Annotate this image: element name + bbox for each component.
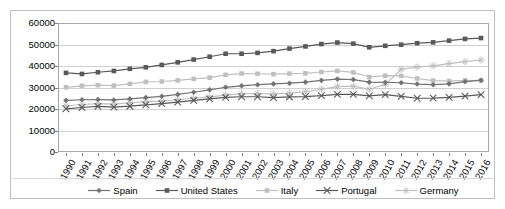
- series-spain: [63, 76, 484, 103]
- x-axis-tick-mark: [433, 153, 434, 156]
- x-axis-tick-mark: [130, 153, 131, 156]
- legend-marker-asterisk-icon: [395, 186, 417, 195]
- x-axis-tick-mark: [162, 153, 163, 156]
- legend-marker-diamond-icon: [88, 186, 110, 195]
- legend-marker-square-icon: [256, 186, 278, 195]
- legend-item-spain[interactable]: Spain: [88, 186, 137, 196]
- x-axis-tick-mark: [305, 153, 306, 156]
- y-axis-tick-label: 30000: [11, 83, 55, 93]
- x-axis: 1990199119921993199419951996199719981999…: [58, 153, 489, 185]
- x-axis-tick-mark: [401, 153, 402, 156]
- y-axis-tick-label: 20000: [11, 104, 55, 114]
- legend-item-italy[interactable]: Italy: [256, 186, 298, 196]
- x-axis-tick-mark: [417, 153, 418, 156]
- x-axis-tick-mark: [449, 153, 450, 156]
- legend-label: United States: [181, 186, 238, 196]
- y-axis-tick-label: 0: [11, 147, 55, 157]
- y-axis: 0100002000030000400005000060000: [11, 23, 55, 152]
- legend-divider: [12, 178, 495, 179]
- legend-item-germany[interactable]: Germany: [395, 186, 459, 196]
- legend-label: Germany: [420, 186, 459, 196]
- y-axis-tick-label: 40000: [11, 61, 55, 71]
- legend-item-united-states[interactable]: United States: [156, 186, 238, 196]
- x-axis-tick-mark: [337, 153, 338, 156]
- x-axis-tick-mark: [114, 153, 115, 156]
- x-axis-tick-mark: [226, 153, 227, 156]
- legend-label: Portugal: [341, 186, 376, 196]
- x-axis-tick-mark: [194, 153, 195, 156]
- series-united-states: [64, 36, 484, 77]
- legend-marker-x-icon: [316, 186, 338, 195]
- y-axis-tick-label: 10000: [11, 126, 55, 136]
- legend-marker-square-icon: [156, 186, 178, 195]
- y-axis-tick-label: 50000: [11, 40, 55, 50]
- x-axis-tick-mark: [289, 153, 290, 156]
- chart-legend: SpainUnited StatesItalyPortugalGermany: [58, 183, 489, 198]
- x-axis-tick-mark: [369, 153, 370, 156]
- x-axis-tick-mark: [210, 153, 211, 156]
- x-axis-tick-mark: [242, 153, 243, 156]
- x-axis-tick-mark: [98, 153, 99, 156]
- series-layer: [58, 23, 489, 152]
- legend-label: Italy: [281, 186, 298, 196]
- legend-item-portugal[interactable]: Portugal: [316, 186, 376, 196]
- x-axis-tick-mark: [82, 153, 83, 156]
- x-axis-tick-mark: [146, 153, 147, 156]
- y-axis-tick-label: 60000: [11, 18, 55, 28]
- x-axis-tick-mark: [481, 153, 482, 156]
- x-axis-tick-mark: [353, 153, 354, 156]
- x-axis-tick-mark: [258, 153, 259, 156]
- x-axis-tick-mark: [465, 153, 466, 156]
- x-axis-tick-mark: [274, 153, 275, 156]
- chart-container: 0100002000030000400005000060000 19901991…: [10, 10, 495, 199]
- x-axis-tick-mark: [178, 153, 179, 156]
- x-axis-tick-mark: [321, 153, 322, 156]
- x-axis-tick-mark: [385, 153, 386, 156]
- legend-label: Spain: [113, 186, 137, 196]
- x-axis-tick-mark: [66, 153, 67, 156]
